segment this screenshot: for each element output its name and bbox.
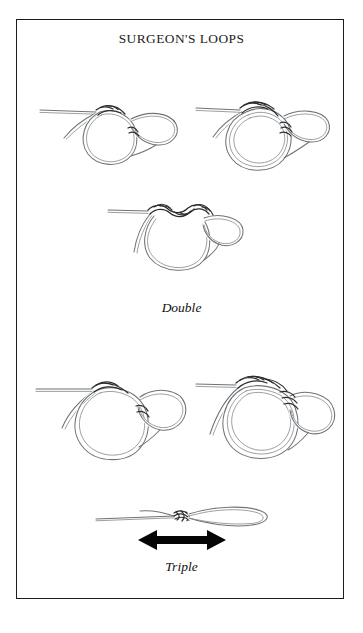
caption-triple: Triple bbox=[0, 559, 363, 575]
pull-direction-arrow bbox=[138, 529, 226, 551]
illustration-page: SURGEON'S LOOPS bbox=[0, 0, 363, 633]
page-title: SURGEON'S LOOPS bbox=[0, 31, 363, 47]
figure-triple-loop-step-1 bbox=[36, 364, 191, 474]
figure-triple-loop-step-2 bbox=[196, 362, 351, 472]
figure-double-loop-step-1 bbox=[38, 88, 188, 183]
figure-double-loop-step-2 bbox=[196, 86, 346, 186]
caption-double: Double bbox=[0, 300, 363, 316]
figure-double-loop-step-3 bbox=[108, 196, 268, 286]
